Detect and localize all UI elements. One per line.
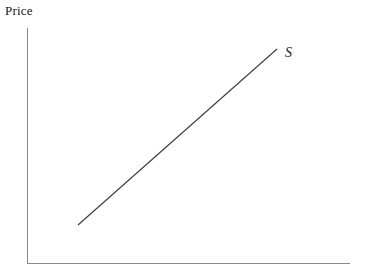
supply-curve-figure: Price S (0, 0, 369, 280)
supply-curve-label: S (285, 45, 292, 61)
plot-area (0, 0, 369, 280)
y-axis-label: Price (5, 3, 33, 19)
supply-curve-line (78, 49, 277, 225)
